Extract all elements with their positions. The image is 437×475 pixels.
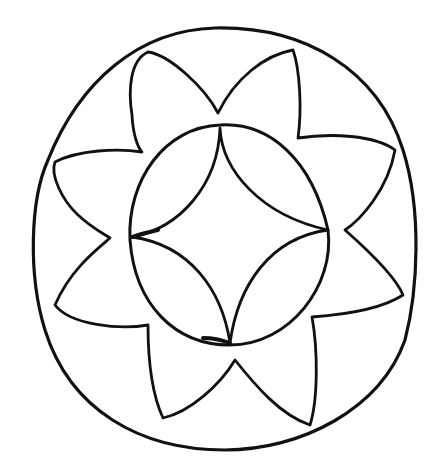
- inner-circle: [130, 125, 329, 345]
- drawing-canvas: Hand-drawn eight-petal mandala line art: [0, 0, 437, 475]
- inner-star-left-stroke: [132, 230, 158, 237]
- eight-petal-star: [54, 50, 403, 425]
- inner-four-point-star: [132, 128, 328, 343]
- outer-circle: [33, 28, 416, 450]
- mandala-drawing: [0, 0, 437, 475]
